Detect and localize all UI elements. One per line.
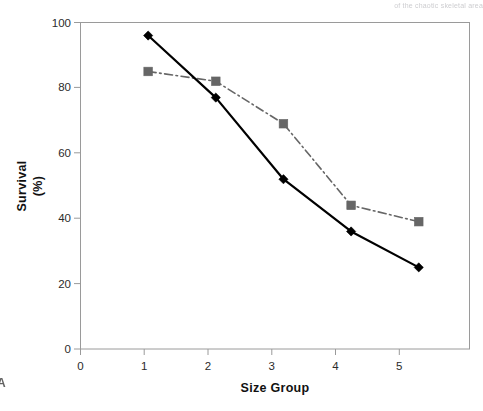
series-2-marker (212, 77, 221, 86)
series-2-marker (347, 201, 356, 210)
line-chart: 0 20 40 60 80 100 0 1 2 3 4 5 Size Group (0, 0, 483, 411)
figure-panel: of the chaotic skeletal area A 0 20 40 6… (0, 0, 483, 411)
x-tick-label: 1 (141, 360, 147, 372)
y-tick-label: 20 (58, 278, 71, 290)
y-tick-label: 80 (58, 81, 71, 93)
y-tick-label: 100 (52, 17, 71, 29)
y-axis-title-line2: (%) (31, 176, 45, 196)
y-tick-label: 0 (65, 343, 71, 355)
y-axis-title-line1: Survival (15, 160, 29, 211)
series-2-marker (414, 217, 423, 226)
x-tick-label: 2 (205, 360, 211, 372)
plot-area-frame (81, 23, 470, 350)
series-2-marker (144, 67, 153, 76)
y-axis-tick-labels: 0 20 40 60 80 100 (52, 17, 71, 355)
y-tick-label: 60 (58, 147, 71, 159)
series-2-marker (279, 119, 288, 128)
x-axis-ticks (81, 349, 400, 355)
x-tick-label: 4 (332, 360, 339, 372)
x-tick-label: 5 (396, 360, 402, 372)
y-axis-title: Survival (%) (15, 160, 45, 211)
x-axis-tick-labels: 0 1 2 3 4 5 (77, 360, 402, 372)
x-tick-label: 3 (269, 360, 275, 372)
y-axis-ticks (74, 23, 81, 350)
y-tick-label: 40 (58, 212, 71, 224)
x-tick-label: 0 (77, 360, 83, 372)
x-axis-title: Size Group (241, 381, 310, 395)
